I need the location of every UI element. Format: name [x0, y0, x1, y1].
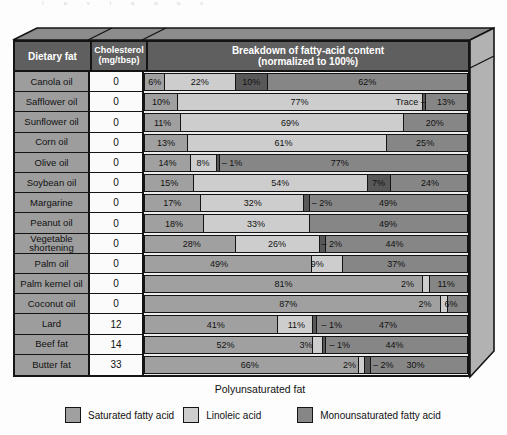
row-label: Sunflower oil	[15, 112, 90, 132]
dietary-fat-figure: ( p y ) g g p y Dietary fat Cholesterol …	[0, 0, 507, 435]
table-row: Vegetable shortening028%26%– 2%44%	[15, 234, 468, 254]
row-label: Soybean oil	[15, 173, 90, 193]
bar-value-label: 20%	[426, 118, 444, 128]
table-row: Canola oil06%22%10%62%	[15, 72, 468, 92]
bar-value-label: 18%	[165, 219, 183, 229]
bar-value-label: 47%	[379, 320, 397, 330]
bar-value-label: 77%	[291, 97, 309, 107]
bar-cell: 10%77%Trace –13%	[144, 92, 468, 112]
bar-value-label: 10%	[152, 97, 170, 107]
cholesterol-value: 0	[90, 234, 144, 254]
bar-value-label: 22%	[191, 77, 209, 87]
legend-item: Monounsaturated fatty acid	[297, 407, 441, 423]
bar-value-label: 14%	[159, 158, 177, 168]
row-label: Beef fat	[15, 335, 90, 355]
row-label: Lard	[15, 314, 90, 334]
cholesterol-value: 14	[90, 335, 144, 355]
row-label: Palm kernel oil	[15, 274, 90, 294]
bar-value-label: 54%	[271, 178, 289, 188]
cholesterol-value: 12	[90, 314, 144, 334]
header-dietary-fat-label: Dietary fat	[28, 51, 77, 62]
bar-value-label: 6%	[444, 299, 457, 309]
bar-value-label: 2%	[401, 279, 414, 289]
bar-cell: 66%2%– 2%30%	[144, 355, 468, 375]
bar-value-label: 52%	[216, 340, 234, 350]
header-breakdown: Breakdown of fatty-acid content (normali…	[148, 42, 468, 70]
header-cholesterol: Cholesterol (mg/tbsp)	[92, 42, 148, 70]
legend: Saturated fatty acidLinoleic acidMonouns…	[65, 407, 441, 423]
cholesterol-value: 0	[90, 133, 144, 153]
bar-value-label: 49%	[210, 259, 228, 269]
bar-value-label: 37%	[387, 259, 405, 269]
bar-cell: 17%32%– 2%49%	[144, 193, 468, 213]
bar-cell: 52%3%– 1%44%	[144, 335, 468, 355]
bar-cell: 11%69%20%	[144, 112, 468, 132]
stacked-bar: 52%3%– 1%44%	[144, 336, 468, 354]
table-row: Lard1241%11%– 1%47%	[15, 314, 468, 334]
bar-value-label: 61%	[274, 138, 292, 148]
legend-swatch	[65, 407, 81, 423]
table-row: Beef fat1452%3%– 1%44%	[15, 335, 468, 355]
row-label: Coconut oil	[15, 294, 90, 314]
table-row: Corn oil013%61%25%	[15, 133, 468, 153]
bar-value-label: 28%	[183, 239, 201, 249]
bar-value-label: 6%	[148, 77, 161, 87]
bar-value-label: 87%	[279, 299, 297, 309]
bar-value-label: 10%	[242, 77, 260, 87]
table-row: Palm kernel oil081%2%11%	[15, 274, 468, 294]
stacked-bar: 49%9%37%	[144, 255, 468, 273]
fatty-acid-table: Dietary fat Cholesterol (mg/tbsp) Breakd…	[13, 40, 470, 377]
bar-value-label: 11%	[154, 118, 171, 128]
legend-swatch	[297, 407, 313, 423]
legend-swatch	[183, 407, 199, 423]
cholesterol-value: 0	[90, 274, 144, 294]
row-label: Safflower oil	[15, 92, 90, 112]
bar-value-label: 81%	[274, 279, 292, 289]
bar-value-label: 13%	[437, 97, 455, 107]
row-label: Vegetable shortening	[15, 234, 90, 254]
header-breakdown-line1: Breakdown of fatty-acid content	[232, 45, 384, 56]
bar-cell: 49%9%37%	[144, 254, 468, 274]
legend-item: Saturated fatty acid	[65, 407, 174, 423]
header-breakdown-line2: (normalized to 100%)	[258, 56, 358, 67]
bar-value-label: 8%	[196, 158, 209, 168]
stacked-bar: 11%69%20%	[144, 113, 468, 131]
polyunsaturated-fat-label: Polyunsaturated fat	[180, 383, 340, 395]
bar-value-label: 2%	[343, 360, 356, 370]
bar-cell: 13%61%25%	[144, 133, 468, 153]
bar-value-label: 44%	[386, 340, 404, 350]
cholesterol-value: 0	[90, 112, 144, 132]
bar-value-label: – 1%	[330, 340, 351, 350]
cholesterol-value: 0	[90, 72, 144, 92]
table-row: Butter fat3366%2%– 2%30%	[15, 355, 468, 375]
table-row: Olive oil014%8%– 1%77%	[15, 153, 468, 173]
cholesterol-value: 0	[90, 213, 144, 233]
bar-cell: 81%2%11%	[144, 274, 468, 294]
row-label: Canola oil	[15, 72, 90, 92]
cholesterol-value: 0	[90, 153, 144, 173]
bar-value-label: 26%	[268, 239, 286, 249]
bar-value-label: Trace –	[396, 97, 426, 107]
bar-value-label: 2%	[419, 299, 432, 309]
bar-value-label: 17%	[163, 198, 181, 208]
bar-cell: 41%11%– 1%47%	[144, 314, 468, 334]
table-row: Sunflower oil011%69%20%	[15, 112, 468, 132]
top-face	[13, 28, 494, 40]
header-dietary-fat: Dietary fat	[15, 42, 92, 70]
stacked-bar: 18%33%49%	[144, 214, 468, 232]
row-label: Olive oil	[15, 153, 90, 173]
cholesterol-value: 0	[90, 92, 144, 112]
stacked-bar: 41%11%– 1%47%	[144, 315, 468, 333]
bar-value-label: 66%	[241, 360, 259, 370]
bar-value-label: 33%	[247, 219, 265, 229]
bar-segment-lin	[312, 337, 322, 353]
row-label: Corn oil	[15, 133, 90, 153]
table-row: Peanut oil018%33%49%	[15, 213, 468, 233]
stacked-bar: 13%61%25%	[144, 134, 468, 152]
row-label: Palm oil	[15, 254, 90, 274]
cholesterol-value: 33	[90, 355, 144, 375]
table-row: Margarine017%32%– 2%49%	[15, 193, 468, 213]
row-label: Butter fat	[15, 355, 90, 375]
stacked-bar: 15%54%7%24%	[144, 174, 468, 192]
bar-value-label: 13%	[157, 138, 175, 148]
